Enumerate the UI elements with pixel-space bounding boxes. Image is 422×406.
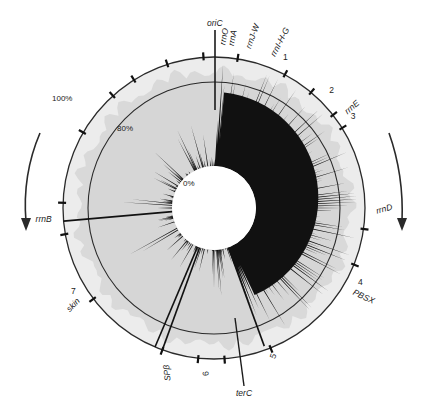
marker-label-rrnihg: rrnI-H-G (268, 25, 292, 58)
scale-label-0: 0% (183, 179, 195, 188)
marker-label-rrnjw: rrnJ-W (243, 22, 261, 50)
marker-label-skin: skin (64, 296, 82, 314)
oric-label: oriC (207, 18, 223, 28)
marker-label-4: 4 (358, 277, 363, 287)
left-replication-arrow-icon (25, 133, 40, 222)
marker-label-2: 2 (329, 85, 334, 95)
left-arrowhead-icon (21, 218, 31, 231)
tick-mark-icon (203, 52, 204, 60)
marker-label-rrnb: rrnB (36, 214, 52, 224)
marker-label-1: 1 (283, 52, 288, 62)
scale-label-80: 80% (117, 124, 133, 133)
marker-label-6: 6 (200, 370, 210, 376)
terc-label: terC (236, 388, 253, 398)
tick-mark-icon (237, 54, 238, 62)
marker-label-5: 5 (268, 352, 279, 360)
marker-label-pbsx: PBSX (351, 287, 376, 306)
tick-mark-icon (361, 229, 369, 230)
marker-label-rrna: rrnA (226, 29, 239, 47)
tick-mark-icon (60, 234, 68, 235)
marker-label-3: 3 (351, 111, 356, 121)
scale-label-100: 100% (52, 94, 72, 103)
tick-mark-icon (224, 356, 225, 364)
genome-map-figure: rrnOrrnArrnJ-WrrnI-H-G12rrnE3rrnD4PBSX56… (0, 0, 422, 406)
marker-label-rrnd: rrnD (375, 202, 394, 216)
marker-label-sp: SPβ (161, 364, 172, 381)
tick-mark-icon (198, 355, 199, 363)
marker-label-7: 7 (71, 286, 76, 296)
right-arrowhead-icon (397, 218, 407, 231)
